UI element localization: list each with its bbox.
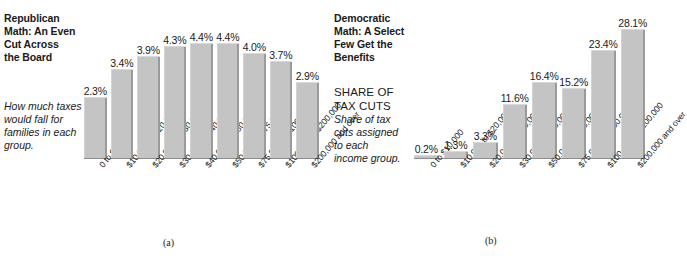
bar-value-label: 2.3% [78, 85, 113, 97]
chart-baseline [84, 158, 319, 159]
bar-value-label: 11.6% [497, 92, 534, 104]
bar-rect [111, 69, 134, 158]
bar-rect [84, 97, 107, 158]
bar-rect [243, 53, 266, 158]
bar-rect [217, 43, 240, 158]
bar-rect [532, 82, 557, 158]
bar [270, 62, 293, 158]
bar-value-label: 3.3% [467, 130, 504, 142]
bar-rect [137, 56, 160, 158]
bar [532, 83, 557, 158]
bar [164, 47, 187, 158]
panel-a-caption: (a) [163, 237, 174, 248]
bar-value-label: 23.4% [585, 38, 622, 50]
bar-value-label: 3.9% [131, 44, 166, 56]
bar-rect [621, 29, 646, 158]
bar [111, 70, 134, 158]
bar [621, 30, 646, 158]
bar [190, 44, 213, 158]
bar-rect [164, 46, 187, 158]
bar-value-label: 3.7% [264, 49, 299, 61]
bar [296, 83, 319, 158]
bar-rect [503, 104, 528, 158]
bar-value-label: 15.2% [556, 76, 593, 88]
panel-b-bar-chart: 0.2%0 to $10,0001.3%$10,000 to $20,0003.… [330, 0, 660, 258]
bar [591, 51, 616, 158]
bar-rect [296, 82, 319, 158]
bar-value-label: 2.9% [290, 70, 325, 82]
bar-value-label: 3.4% [105, 57, 140, 69]
panel-b-caption: (b) [485, 235, 497, 246]
bar [84, 98, 107, 158]
bar [562, 89, 587, 158]
figure-panel-b: Democratic Math: A Select Few Get the Be… [330, 0, 660, 258]
bar [503, 105, 528, 158]
bar-rect [190, 43, 213, 158]
bar-rect [270, 61, 293, 158]
panel-a-bar-chart: 2.3%0 to $10,0003.4%$10,000 to $20,0003.… [0, 0, 330, 258]
bar [137, 57, 160, 158]
figure-panel-a: Republican Math: An Even Cut Across the … [0, 0, 330, 258]
bar-value-label: 28.1% [615, 17, 652, 29]
bar [243, 54, 266, 158]
bar [217, 44, 240, 158]
bar-rect [591, 50, 616, 158]
bar-rect [562, 88, 587, 158]
